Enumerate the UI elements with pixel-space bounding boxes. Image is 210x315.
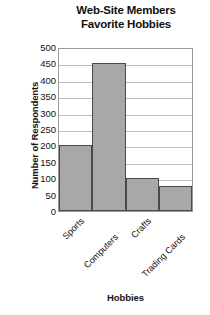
bar[interactable] [92,63,125,211]
y-tick-label: 0 [28,207,56,217]
y-axis-tick-labels: 500450400350300250200150100500 [24,48,56,212]
y-tick-label: 50 [28,191,56,201]
x-tick-label-text: Trading Cards [140,232,187,279]
chart-title: Web-Site Members Favorite Hobbies [58,3,194,31]
y-tick-label: 350 [28,92,56,102]
x-tick-label-text: Sports [61,216,86,241]
x-axis-title: Hobbies [58,292,193,303]
chart-title-line-2: Favorite Hobbies [58,17,194,31]
x-tick-label-text: Computers [82,232,120,270]
x-axis-tick-labels: SportsComputersCraftsTrading Cards [58,212,193,290]
y-tick-label: 300 [28,109,56,119]
chart-title-line-1: Web-Site Members [58,3,194,17]
bar-slot [59,49,92,211]
bar-slot [92,49,125,211]
y-tick-label: 400 [28,76,56,86]
y-tick-label: 450 [28,59,56,69]
y-tick-label: 200 [28,141,56,151]
y-tick-label: 100 [28,174,56,184]
y-tick-label: 250 [28,125,56,135]
y-tick-label: 500 [28,43,56,53]
bar-slot [159,49,192,211]
bar[interactable] [59,145,92,211]
bar-slot [126,49,159,211]
y-tick-label: 150 [28,158,56,168]
chart-container: Web-Site Members Favorite Hobbies Number… [0,0,210,315]
bar-series [59,49,192,211]
plot-area [58,48,193,212]
